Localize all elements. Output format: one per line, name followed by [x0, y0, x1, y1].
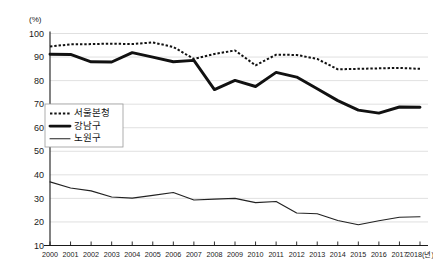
x-tick-label: 2000: [42, 250, 58, 259]
y-tick-label: 50: [34, 146, 44, 156]
x-tick-label: 2012: [289, 250, 305, 259]
y-axis-tick-labels: 100908070605040302010: [29, 29, 44, 251]
y-tick-label: 90: [34, 52, 44, 62]
x-tick-label: 2011: [268, 250, 283, 259]
x-tick-label: 2014: [330, 250, 346, 259]
series-line-노원구: [50, 182, 420, 225]
y-tick-label: 60: [34, 123, 44, 133]
y-tick-label: 80: [34, 76, 44, 86]
y-tick-label: 40: [34, 170, 44, 180]
x-tick-label: 2018(년): [406, 250, 433, 259]
y-tick-label: 70: [34, 99, 44, 109]
x-tick-label: 2002: [83, 250, 99, 259]
legend-label-서울본청: 서울본청: [74, 107, 110, 118]
x-tick-label: 2016: [371, 250, 387, 259]
y-axis-unit-label: (%): [29, 15, 42, 24]
x-tick-label: 2003: [104, 250, 120, 259]
x-tick-label: 2006: [165, 250, 181, 259]
y-tick-label: 100: [29, 29, 44, 39]
legend-label-강남구: 강남구: [74, 120, 101, 131]
chart-canvas: 100908070605040302010 200020012002200320…: [0, 0, 433, 268]
series-line-서울본청: [50, 42, 420, 69]
legend: 서울본청강남구노원구: [45, 104, 123, 147]
x-axis-tick-labels: 2000200120022003200420052006200720082009…: [42, 250, 433, 259]
x-tick-label: 2017: [391, 250, 407, 259]
x-tick-label: 2005: [145, 250, 161, 259]
x-tick-label: 2013: [309, 250, 325, 259]
x-tick-label: 2015: [350, 250, 366, 259]
y-tick-label: 20: [34, 217, 44, 227]
x-tick-label: 2008: [206, 250, 222, 259]
line-chart: 100908070605040302010 200020012002200320…: [0, 0, 433, 268]
x-tick-label: 2004: [124, 250, 140, 259]
y-tick-label: 30: [34, 194, 44, 204]
x-tick-label: 2007: [186, 250, 202, 259]
x-tick-label: 2010: [248, 250, 264, 259]
x-tick-label: 2001: [63, 250, 79, 259]
legend-label-노원구: 노원구: [74, 132, 101, 143]
x-tick-label: 2009: [227, 250, 243, 259]
